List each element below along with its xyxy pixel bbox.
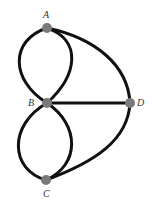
- graph-diagram: A B C D: [0, 0, 152, 210]
- edge-a-b-left: [19, 28, 47, 103]
- edge-b-c-right: [46, 103, 72, 180]
- node-d: [125, 98, 135, 108]
- edge-b-c-left: [18, 103, 47, 180]
- node-a-label: A: [42, 9, 50, 20]
- node-c: [41, 175, 51, 185]
- node-c-label: C: [43, 188, 50, 199]
- node-d-label: D: [136, 97, 145, 108]
- node-a: [42, 23, 52, 33]
- node-b: [42, 98, 52, 108]
- edge-a-b-right: [47, 28, 72, 103]
- node-b-label: B: [28, 97, 34, 108]
